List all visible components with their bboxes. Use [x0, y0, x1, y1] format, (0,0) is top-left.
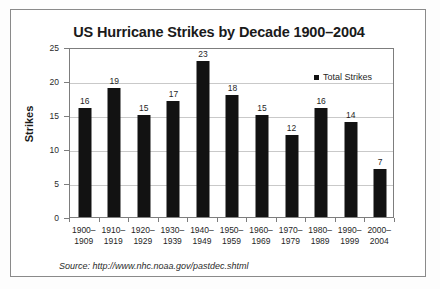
bar[interactable]: [374, 169, 387, 217]
hurricane-strikes-figure: US Hurricane Strikes by Decade 1900–2004…: [0, 0, 440, 289]
bar-value-label: 12: [287, 123, 296, 133]
bar-value-label: 7: [378, 157, 383, 167]
bar-slot: 15: [247, 49, 277, 217]
bar[interactable]: [256, 115, 269, 217]
y-tick-label: 0: [54, 213, 59, 223]
y-tick-label: 25: [50, 43, 59, 53]
y-tick-label: 20: [50, 77, 59, 87]
y-tick-label: 10: [50, 145, 59, 155]
y-tick-label: 15: [50, 111, 59, 121]
x-tick-mark: [246, 218, 247, 222]
bar-value-label: 15: [139, 103, 148, 113]
bar-slot: 16: [70, 49, 100, 217]
x-tick-mark: [158, 218, 159, 222]
bar-slot: 17: [159, 49, 189, 217]
bar-slot: 19: [100, 49, 130, 217]
bar-slot: 15: [129, 49, 159, 217]
bar-value-label: 16: [80, 96, 89, 106]
bar-value-label: 14: [346, 110, 355, 120]
bar-value-label: 17: [169, 89, 178, 99]
bar-value-label: 18: [228, 83, 237, 93]
bar-slot: 12: [277, 49, 307, 217]
chart-frame: US Hurricane Strikes by Decade 1900–2004…: [10, 9, 426, 277]
bar-value-label: 19: [110, 76, 119, 86]
x-tick-mark: [305, 218, 306, 222]
x-tick-mark: [364, 218, 365, 222]
legend-swatch-total-strikes: [314, 75, 319, 80]
y-axis-ticks: 0510152025: [11, 48, 69, 218]
bar-value-label: 15: [257, 103, 266, 113]
x-tick-mark: [335, 218, 336, 222]
x-tick-mark: [99, 218, 100, 222]
legend-label-total-strikes: Total Strikes: [323, 72, 372, 82]
bar-value-label: 23: [198, 49, 207, 59]
bar[interactable]: [226, 95, 239, 217]
x-tick-mark: [69, 218, 70, 222]
x-axis-ticks: 1900–19091910–19191920–19291930–19391940…: [69, 218, 394, 260]
x-tick-label: 2000–2004: [356, 225, 402, 246]
bar[interactable]: [344, 122, 357, 217]
bar[interactable]: [167, 101, 180, 217]
chart-legend: Total Strikes: [314, 72, 372, 82]
source-note: Source: http://www.nhc.noaa.gov/pastdec.…: [59, 261, 249, 271]
x-tick-label-line: 2000–: [356, 225, 402, 236]
chart-title: US Hurricane Strikes by Decade 1900–2004: [11, 24, 427, 40]
bar-slot: 18: [218, 49, 248, 217]
bar-slot: 23: [188, 49, 218, 217]
bar-value-label: 16: [316, 96, 325, 106]
x-tick-label-line: 2004: [356, 236, 402, 247]
bar[interactable]: [78, 108, 91, 217]
bar[interactable]: [315, 108, 328, 217]
x-tick-mark: [394, 218, 395, 222]
bar[interactable]: [285, 135, 298, 217]
bar[interactable]: [108, 88, 121, 217]
bar[interactable]: [196, 61, 209, 217]
bar[interactable]: [137, 115, 150, 217]
x-tick-mark: [128, 218, 129, 222]
y-tick-label: 5: [54, 179, 59, 189]
x-tick-mark: [217, 218, 218, 222]
x-tick-mark: [187, 218, 188, 222]
x-tick-mark: [276, 218, 277, 222]
